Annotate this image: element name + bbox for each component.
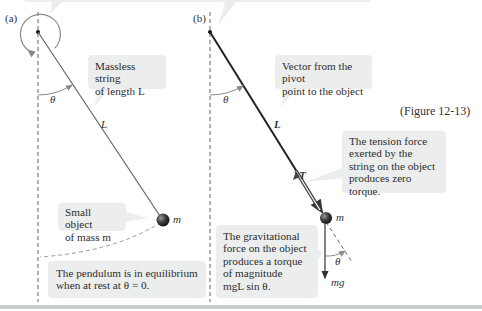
panel-a-label: (a) <box>5 12 17 24</box>
angle-label-b: θ <box>223 93 228 105</box>
weight-label: mg⃗ <box>331 276 353 288</box>
callout-equilibrium: The pendulum is in equilibrium when at r… <box>48 261 206 298</box>
angle-label-bottom: θ <box>335 255 340 267</box>
callout-small-object: Small object of mass m <box>58 203 126 231</box>
callout-massless-string: Massless string of length L <box>88 55 166 89</box>
callout-vector-L: Vector from the pivot point to the objec… <box>275 55 372 89</box>
rotation-arrow-icon <box>20 14 60 50</box>
callout-tension: The tension force exerted by the string … <box>342 131 446 193</box>
tension-label: T⃗ <box>299 169 314 181</box>
mass-ball-b <box>320 212 332 224</box>
figure-number: (Figure 12-13) <box>400 104 470 119</box>
mass-ball-a <box>157 214 170 227</box>
string-length-label: L <box>101 118 107 130</box>
panel-b-label: (b) <box>193 12 206 24</box>
vector-L-label: L⃗ <box>274 118 289 130</box>
angle-label-a: θ <box>50 93 55 105</box>
mass-label-b: m <box>336 211 344 223</box>
callout-gravitational-torque: The gravitational force on the object pr… <box>216 225 318 298</box>
mass-label-a: m <box>173 213 181 225</box>
bottom-rule <box>0 305 482 309</box>
